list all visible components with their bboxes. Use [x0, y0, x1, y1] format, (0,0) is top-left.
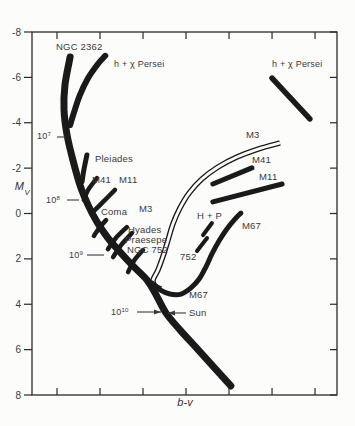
y-tick-label: -2 — [12, 163, 21, 174]
y-tick-label: -6 — [12, 72, 21, 83]
plot-frame — [32, 32, 337, 395]
figure-svg: -8-6-4-202468 — [0, 0, 355, 426]
y-axis-label-sub: V — [24, 188, 29, 197]
series-h-p-dash-upper — [203, 223, 212, 235]
series-m41-branch — [84, 178, 97, 200]
y-tick-label: 2 — [15, 253, 21, 264]
series-m11-giants — [213, 184, 282, 202]
x-axis-label-base: b-v — [177, 396, 192, 408]
y-axis-label-base: M — [15, 180, 24, 192]
y-tick-label: 0 — [15, 208, 21, 219]
y-tick-label: 6 — [15, 344, 21, 355]
series-m11-branch — [93, 190, 115, 212]
y-tick-label: -8 — [12, 27, 21, 38]
y-tick-label: 4 — [15, 299, 21, 310]
series-m3-sequence-outer — [153, 143, 280, 289]
y-tick-label: -4 — [12, 117, 21, 128]
y-axis-label: MV — [15, 181, 29, 195]
y-tick-label: 8 — [15, 390, 21, 401]
series-pleiades-branch — [82, 155, 87, 182]
hr-diagram-figure: -8-6-4-202468 NGC 2362h + χ Perseih + χ … — [0, 0, 355, 426]
series-h-chi-persei-branch — [70, 56, 105, 125]
leader-1e10-arrowhead — [154, 309, 161, 314]
series-h-chi-persei-giants — [272, 78, 310, 119]
series-m41-giants — [213, 168, 252, 184]
x-axis-label: b-v — [177, 397, 192, 408]
series-main-sequence — [64, 57, 231, 386]
series-h-p-dash-lower — [197, 238, 207, 251]
